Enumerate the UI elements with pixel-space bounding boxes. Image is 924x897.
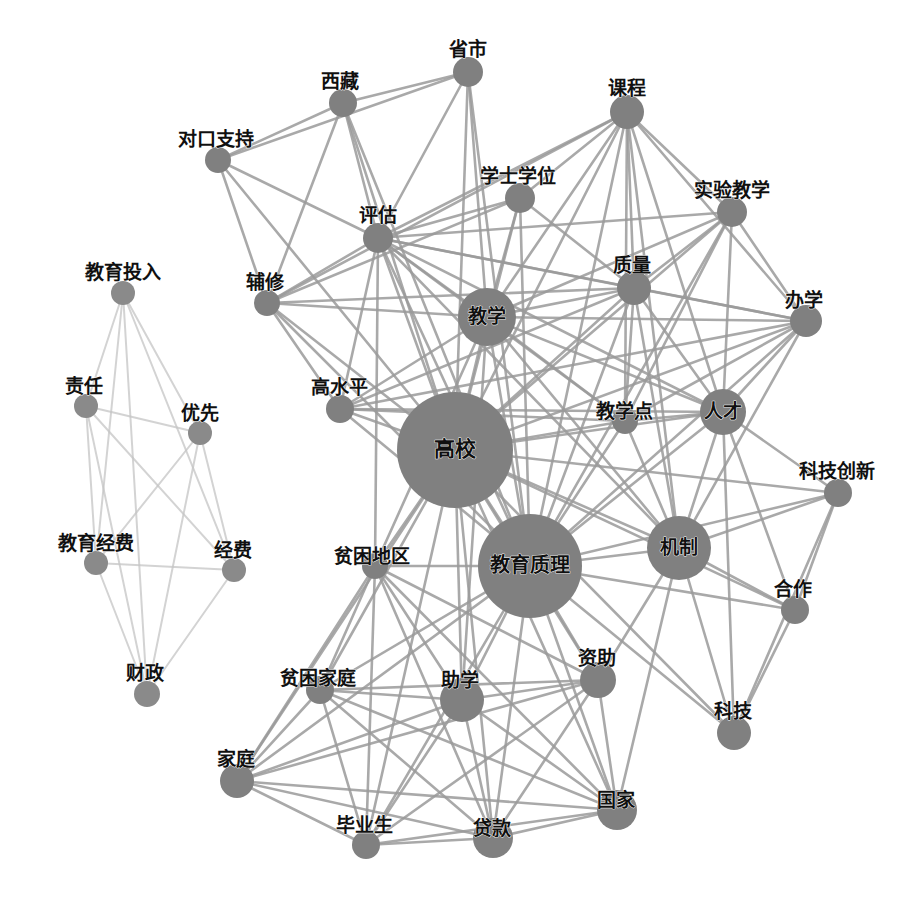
graph-node-label-youxian: 优先 [181,402,219,424]
graph-node-jiaoyutouru[interactable] [111,281,135,305]
graph-node-xizang[interactable] [329,89,357,117]
graph-edge [455,450,617,810]
graph-node-caizheng[interactable] [134,681,160,707]
graph-node-shiyanjiaoxue[interactable] [717,197,747,227]
graph-node-label-jiating: 家庭 [217,748,255,770]
graph-edge [96,563,234,570]
graph-node-label-jingfei: 经费 [214,539,252,561]
graph-node-duikouzhichi[interactable] [205,147,231,173]
graph-node-label-biyesheng: 毕业生 [336,814,393,836]
graph-node-label-xizang: 西藏 [321,70,359,92]
graph-node-label-banxue: 办学 [785,289,823,311]
graph-node-label-zhuxue: 助学 [441,669,479,691]
graph-node-label-caizheng: 财政 [126,662,165,684]
graph-node-pinggu[interactable] [363,223,393,253]
graph-node-label-gaoxiao: 高校 [434,437,477,461]
network-graph-svg: 省市西藏课程对口支持学士学位实验教学评估教育投入质量辅修教学办学责任优先高水平人… [0,0,924,897]
graph-node-label-guojia: 国家 [597,789,636,811]
graph-edge [343,72,468,103]
graph-node-label-rencai: 人才 [704,400,742,422]
graph-node-label-jizhi: 机制 [660,536,698,558]
graph-node-label-fuxiu: 辅修 [246,271,285,293]
graph-edge [237,781,617,810]
graph-edge [267,112,627,303]
graph-edge [487,317,806,321]
graph-node-xueshixuewei[interactable] [505,183,535,213]
graph-node-label-jiaoyutouru: 教育投入 [85,261,161,283]
graph-node-shengshi[interactable] [453,57,483,87]
graph-node-label-pinkunjiating: 贫困家庭 [280,667,356,689]
graph-node-hezuo[interactable] [781,596,809,624]
graph-edge [123,293,234,570]
graph-node-label-duikouzhichi: 对口支持 [178,128,254,150]
graph-node-label-pinggu: 评估 [359,204,397,226]
graph-node-youxian[interactable] [188,421,212,445]
graph-node-label-jiaoxuedian: 教学点 [596,400,653,422]
graph-node-jiaoyujingfei[interactable] [84,551,108,575]
graph-node-kejichuangxin[interactable] [824,479,852,507]
graph-node-label-jiaoxue: 教学 [468,305,506,327]
graph-node-label-zeren: 责任 [65,375,103,397]
graph-node-label-xueshixuewei: 学士学位 [480,165,556,187]
graph-node-label-shengshi: 省市 [448,38,487,60]
graph-node-label-jiaoyuzhili: 教育质理 [490,553,570,577]
graph-node-gaoshuiping[interactable] [326,395,354,423]
graph-node-fuxiu[interactable] [254,290,280,316]
graph-node-zhiliang[interactable] [617,271,651,305]
graph-node-kecheng[interactable] [610,95,644,129]
graph-node-label-kejichuangxin: 科技创新 [799,460,875,482]
graph-node-label-zizhu: 资助 [578,647,616,669]
graph-node-label-daikuan: 贷款 [473,817,512,839]
graph-edge [634,288,806,321]
graph-node-label-zhiliang: 质量 [613,254,651,276]
graph-node-label-gaoshuiping: 高水平 [311,376,368,398]
graph-node-zeren[interactable] [74,394,98,418]
graph-node-label-pinkundiqu: 贫困地区 [334,545,410,567]
graph-node-jingfei[interactable] [222,558,246,582]
graph-node-label-shiyanjiaoxue: 实验教学 [694,179,770,201]
graph-node-label-keji: 科技 [714,700,753,722]
graph-edge [723,212,732,412]
graph-node-label-jiaoyujingfei: 教育经费 [58,532,134,554]
graph-node-label-kecheng: 课程 [608,77,646,99]
graph-node-label-hezuo: 合作 [774,578,812,600]
network-graph-canvas: 省市西藏课程对口支持学士学位实验教学评估教育投入质量辅修教学办学责任优先高水平人… [0,0,924,897]
